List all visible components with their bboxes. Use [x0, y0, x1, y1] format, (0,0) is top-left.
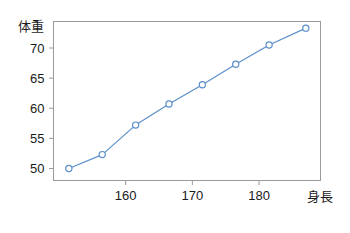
- data-point-marker: [166, 101, 172, 107]
- x-tick-label: 160: [115, 188, 137, 203]
- plot-frame: [54, 22, 321, 181]
- y-tick-label: 70: [30, 41, 44, 56]
- data-markers: [66, 25, 309, 172]
- data-point-marker: [133, 122, 139, 128]
- y-axis-ticks: 5055606570: [30, 41, 53, 176]
- line-chart: 体重 身長 160170180 5055606570: [0, 0, 350, 233]
- data-line: [69, 28, 306, 168]
- data-point-marker: [233, 61, 239, 67]
- x-tick-label: 180: [248, 188, 270, 203]
- y-tick-label: 65: [30, 71, 44, 86]
- plot-area: 160170180 5055606570: [0, 0, 350, 233]
- y-tick-label: 60: [30, 101, 44, 116]
- data-point-marker: [303, 25, 309, 31]
- x-tick-label: 170: [181, 188, 203, 203]
- data-point-marker: [266, 42, 272, 48]
- x-axis-ticks: 160170180: [115, 181, 270, 203]
- data-point-marker: [199, 82, 205, 88]
- y-tick-label: 50: [30, 161, 44, 176]
- data-point-marker: [66, 165, 72, 171]
- data-point-marker: [99, 152, 105, 158]
- y-tick-label: 55: [30, 131, 44, 146]
